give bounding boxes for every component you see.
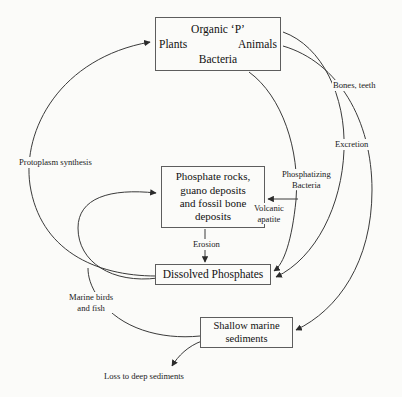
edge-label-phosphatizing-line1: Phosphatizing <box>282 169 331 179</box>
node-organic-animals: Animals <box>238 37 277 51</box>
edge-label-phosphatizing-line2: Bacteria <box>292 180 321 190</box>
node-rocks-line3: and fossil bone <box>180 197 247 210</box>
node-organic-row: Plants Animals <box>156 36 280 51</box>
node-rocks-line1: Phosphate rocks, <box>176 170 251 183</box>
edge-label-marine-birds-and-fish: Marine birds and fish <box>68 292 114 313</box>
edge-label-volcanic-line2: apatite <box>258 214 281 224</box>
edge-label-marine-line2: and fish <box>77 303 104 313</box>
node-shallow-line2: sediments <box>226 333 268 346</box>
edge-label-bones-teeth: Bones, teeth <box>332 80 376 91</box>
phosphorus-cycle-diagram: Organic ‘P’ Plants Animals Bacteria Phos… <box>0 0 402 397</box>
edge-label-erosion: Erosion <box>192 239 221 250</box>
node-organic-phosphorus[interactable]: Organic ‘P’ Plants Animals Bacteria <box>155 17 281 71</box>
edge-label-excretion: Excretion <box>334 139 369 150</box>
node-dissolved-phosphates[interactable]: Dissolved Phosphates <box>155 264 271 285</box>
edge-label-protoplasm-synthesis: Protoplasm synthesis <box>18 157 93 168</box>
node-rocks-line2: guano deposits <box>180 184 246 197</box>
node-rocks-line4: deposits <box>195 210 231 223</box>
node-organic-title: Organic ‘P’ <box>191 22 245 36</box>
edge-label-marine-line1: Marine birds <box>69 292 113 302</box>
edge-label-loss-to-deep-sediments: Loss to deep sediments <box>103 371 185 382</box>
edge-loss-to-deep-sediments <box>172 341 202 366</box>
edge-bones-teeth <box>276 32 344 277</box>
edge-dissolved-to-rocks <box>78 192 158 279</box>
node-shallow-marine-sediments[interactable]: Shallow marine sediments <box>200 317 293 348</box>
node-organic-bacteria: Bacteria <box>199 51 237 66</box>
node-dissolved-label: Dissolved Phosphates <box>163 267 264 281</box>
node-phosphate-rocks[interactable]: Phosphate rocks, guano deposits and foss… <box>161 166 265 228</box>
edge-label-volcanic-line1: Volcanic <box>254 203 284 213</box>
edge-label-phosphatizing-bacteria: Phosphatizing Bacteria <box>281 169 332 190</box>
edge-label-volcanic-apatite: Volcanic apatite <box>253 203 285 224</box>
node-organic-plants: Plants <box>159 37 187 51</box>
node-shallow-line1: Shallow marine <box>213 320 279 333</box>
